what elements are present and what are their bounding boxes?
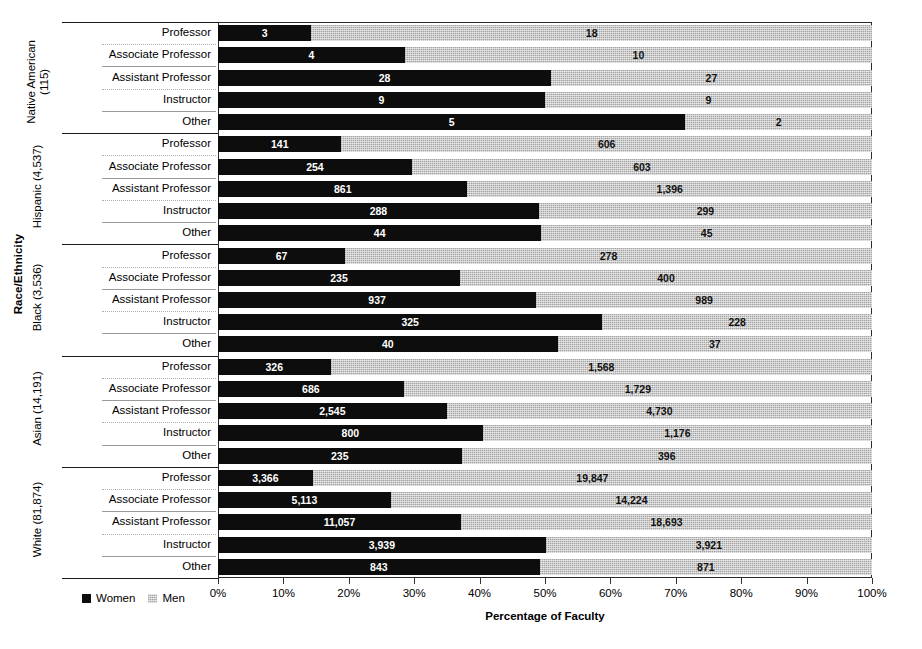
bar-segment-men: 2: [685, 114, 872, 130]
bar-value-women: 3,939: [369, 539, 395, 551]
category-separator: [102, 44, 216, 45]
bar-segment-women: 3,939: [218, 537, 546, 553]
bar-row: 2,5454,730: [218, 403, 872, 419]
category-label-assistant-professor: Assistant Professor: [88, 516, 216, 528]
bar-segment-women: 9: [218, 92, 545, 108]
bar-row: 3261,568: [218, 359, 872, 375]
group-label-text: White (81,874): [32, 464, 45, 575]
bar-segment-men: 871: [540, 559, 872, 575]
bar-segment-women: 28: [218, 70, 551, 86]
bar-value-men: 400: [657, 272, 675, 284]
group-separator: [62, 356, 218, 357]
bar-value-women: 141: [271, 138, 289, 150]
legend-label-women: Women: [96, 592, 135, 604]
group-separator: [62, 467, 218, 468]
bar-value-women: 325: [401, 316, 419, 328]
category-label-professor: Professor: [88, 361, 216, 373]
bar-value-women: 3: [262, 27, 268, 39]
bar-value-men: 396: [658, 450, 676, 462]
category-separator: [102, 422, 216, 423]
bar-row: 3,36619,847: [218, 470, 872, 486]
bar-segment-men: 606: [341, 136, 872, 152]
bar-segment-men: 18,693: [461, 514, 872, 530]
bar-segment-women: 40: [218, 336, 558, 352]
category-separator: [102, 89, 216, 90]
bar-value-women: 40: [382, 338, 394, 350]
bar-value-women: 937: [368, 294, 386, 306]
bar-segment-men: 989: [536, 292, 872, 308]
bar-segment-men: 228: [602, 314, 872, 330]
bar-value-men: 27: [706, 72, 718, 84]
bar-segment-men: 18: [311, 25, 872, 41]
bar-segment-men: 9: [545, 92, 872, 108]
x-axis-title: Percentage of Faculty: [218, 610, 872, 622]
category-label-other: Other: [88, 338, 216, 350]
category-separator: [102, 400, 216, 401]
bar-value-men: 37: [709, 338, 721, 350]
bar-row: 937989: [218, 292, 872, 308]
bar-segment-men: 1,729: [404, 381, 872, 397]
bar-row: 254603: [218, 159, 872, 175]
legend-swatch-men-icon: [148, 594, 157, 603]
bar-segment-women: 254: [218, 159, 412, 175]
bar-segment-men: 14,224: [391, 492, 872, 508]
bar-value-women: 235: [330, 272, 348, 284]
bar-value-women: 9: [379, 94, 385, 106]
bar-segment-women: 2,545: [218, 403, 447, 419]
bar-row: 3,9393,921: [218, 537, 872, 553]
bar-value-men: 606: [598, 138, 616, 150]
bar-value-men: 45: [701, 227, 713, 239]
category-label-assistant-professor: Assistant Professor: [88, 294, 216, 306]
bar-segment-women: 3: [218, 25, 311, 41]
category-separator: [102, 511, 216, 512]
legend-item-men: Men: [148, 592, 184, 604]
bar-segment-women: 3,366: [218, 470, 313, 486]
x-axis-tick: [807, 578, 808, 584]
category-separator: [102, 200, 216, 201]
bar-segment-women: 44: [218, 225, 541, 241]
bar-value-women: 67: [276, 250, 288, 262]
x-axis-tick-label: 10%: [253, 587, 313, 599]
bar-segment-women: 325: [218, 314, 602, 330]
x-axis-tick: [545, 578, 546, 584]
group-label-text: Asian (14,191): [32, 353, 45, 464]
bar-row: 52: [218, 114, 872, 130]
bar-segment-men: 10: [405, 47, 872, 63]
group-separator: [62, 244, 218, 245]
category-label-instructor: Instructor: [88, 539, 216, 551]
bar-value-women: 2,545: [319, 405, 345, 417]
bar-value-men: 1,396: [657, 183, 683, 195]
bar-value-men: 1,176: [664, 427, 690, 439]
bar-value-men: 19,847: [576, 472, 608, 484]
bar-value-men: 1,729: [625, 383, 651, 395]
bar-value-women: 843: [370, 561, 388, 573]
x-axis-tick: [610, 578, 611, 584]
bar-value-men: 9: [706, 94, 712, 106]
bar-value-women: 686: [302, 383, 320, 395]
bar-value-women: 4: [309, 49, 315, 61]
bar-row: 141606: [218, 136, 872, 152]
group-label-text: Hispanic (4,537): [32, 131, 45, 242]
category-separator: [102, 333, 216, 334]
category-label-instructor: Instructor: [88, 205, 216, 217]
bar-segment-women: 67: [218, 248, 345, 264]
category-label-assistant-professor: Assistant Professor: [88, 183, 216, 195]
bar-segment-women: 288: [218, 203, 539, 219]
x-axis-tick: [741, 578, 742, 584]
category-label-instructor: Instructor: [88, 94, 216, 106]
bar-row: 843871: [218, 559, 872, 575]
x-axis-tick: [676, 578, 677, 584]
bar-value-women: 11,057: [324, 516, 356, 528]
bar-row: 8611,396: [218, 181, 872, 197]
category-label-professor: Professor: [88, 472, 216, 484]
x-axis-tick: [349, 578, 350, 584]
category-label-associate-professor: Associate Professor: [88, 494, 216, 506]
category-label-associate-professor: Associate Professor: [88, 383, 216, 395]
group-separator: [62, 22, 218, 23]
bar-row: 4037: [218, 336, 872, 352]
category-label-associate-professor: Associate Professor: [88, 272, 216, 284]
bar-row: 410: [218, 47, 872, 63]
bar-value-women: 3,366: [252, 472, 278, 484]
group-separator: [62, 578, 218, 579]
legend-swatch-women-icon: [82, 594, 91, 603]
